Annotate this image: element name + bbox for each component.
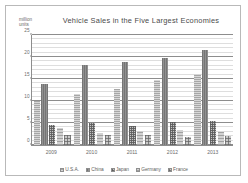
bar-usa-2012[interactable] — [154, 80, 160, 145]
bar-group-2012 — [153, 35, 193, 145]
bar-france-2009[interactable] — [64, 135, 70, 145]
bar-japan-2012[interactable] — [170, 122, 176, 145]
legend-item-france[interactable]: France — [168, 167, 188, 172]
legend-swatch-china-icon — [86, 168, 90, 172]
x-tick-label-2011: 2011 — [112, 149, 152, 155]
bar-group-2011 — [112, 35, 152, 145]
bar-france-2010[interactable] — [105, 135, 111, 145]
bar-china-2011[interactable] — [122, 62, 128, 145]
bar-germany-2012[interactable] — [177, 130, 183, 145]
bar-germany-2011[interactable] — [137, 131, 143, 145]
y-tick-label: 0 — [27, 138, 30, 143]
legend-label-japan: Japan — [116, 167, 129, 172]
legend-label-china: China — [91, 167, 104, 172]
bar-groups — [32, 35, 233, 145]
bar-germany-2009[interactable] — [57, 128, 63, 145]
legend-swatch-japan-icon — [111, 168, 115, 172]
bar-usa-2010[interactable] — [74, 94, 80, 145]
x-tick-label-2013: 2013 — [193, 149, 233, 155]
bar-japan-2013[interactable] — [210, 121, 216, 145]
chart-legend: U.S.A.ChinaJapanGermanyFrance — [20, 164, 228, 175]
chart-container: Vehicle Sales in the Five Largest Econom… — [5, 5, 241, 176]
legend-item-usa[interactable]: U.S.A. — [60, 167, 79, 172]
plot-area: 0510152025 — [31, 35, 233, 146]
bar-usa-2013[interactable] — [194, 74, 200, 145]
y-tick-label: 20 — [24, 50, 29, 55]
legend-label-usa: U.S.A. — [65, 167, 79, 172]
bar-china-2013[interactable] — [202, 50, 208, 145]
bar-japan-2011[interactable] — [129, 126, 135, 145]
y-tick-label: 15 — [24, 72, 29, 77]
bar-group-2009 — [32, 35, 72, 145]
legend-label-france: France — [173, 167, 188, 172]
bar-japan-2010[interactable] — [89, 123, 95, 145]
bar-group-2013 — [193, 35, 233, 145]
x-tick-label-2012: 2012 — [152, 149, 192, 155]
bar-germany-2013[interactable] — [218, 132, 224, 145]
y-tick-label: 10 — [24, 94, 29, 99]
legend-swatch-france-icon — [168, 168, 172, 172]
bar-germany-2010[interactable] — [97, 133, 103, 145]
bar-group-2010 — [72, 35, 112, 145]
bar-china-2009[interactable] — [41, 84, 47, 145]
bar-japan-2009[interactable] — [49, 125, 55, 145]
legend-item-china[interactable]: China — [86, 167, 104, 172]
chart-title: Vehicle Sales in the Five Largest Econom… — [46, 16, 236, 25]
bar-china-2012[interactable] — [162, 58, 168, 145]
x-tick-label-2010: 2010 — [71, 149, 111, 155]
legend-swatch-germany-icon — [136, 168, 140, 172]
legend-swatch-usa-icon — [60, 168, 64, 172]
bar-usa-2011[interactable] — [114, 89, 120, 145]
x-tick-label-2009: 2009 — [31, 149, 71, 155]
legend-item-germany[interactable]: Germany — [136, 167, 161, 172]
y-tick-label: 25 — [24, 28, 29, 33]
y-tick-label: 5 — [27, 116, 30, 121]
bar-france-2012[interactable] — [185, 137, 191, 145]
bar-france-2013[interactable] — [225, 136, 231, 145]
x-axis-labels: 20092010201120122013 — [31, 149, 233, 155]
bar-usa-2009[interactable] — [34, 101, 40, 145]
bar-france-2011[interactable] — [145, 135, 151, 145]
legend-item-japan[interactable]: Japan — [111, 167, 129, 172]
y-axis-unit-label: million units — [19, 17, 32, 27]
bar-china-2010[interactable] — [82, 65, 88, 145]
legend-label-germany: Germany — [141, 167, 161, 172]
